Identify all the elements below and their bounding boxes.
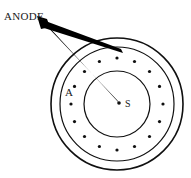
anode-dot <box>83 70 86 73</box>
middle-circle <box>60 47 174 161</box>
anode-dot <box>158 120 161 123</box>
anode-dot <box>98 60 101 63</box>
inner-circle <box>84 71 150 137</box>
anode-dot <box>115 56 118 59</box>
anode-dot <box>158 85 161 88</box>
anode-dot <box>73 120 76 123</box>
anode-dot <box>83 135 86 138</box>
anode-dot <box>133 145 136 148</box>
anode-dot <box>161 102 164 105</box>
anode-dot <box>133 60 136 63</box>
annulus-label: A <box>65 86 73 98</box>
anode-dot <box>115 148 118 151</box>
figure-canvas: ANODE A S <box>0 0 191 178</box>
source-dot <box>117 101 121 105</box>
anode-label: ANODE <box>4 10 44 22</box>
anode-ring-diagram: ANODE A S <box>0 0 191 178</box>
anode-dot <box>148 70 151 73</box>
anode-dot <box>148 135 151 138</box>
anode-dot <box>73 85 76 88</box>
anode-dot <box>69 102 72 105</box>
source-label: S <box>125 98 131 109</box>
anode-dot <box>98 145 101 148</box>
